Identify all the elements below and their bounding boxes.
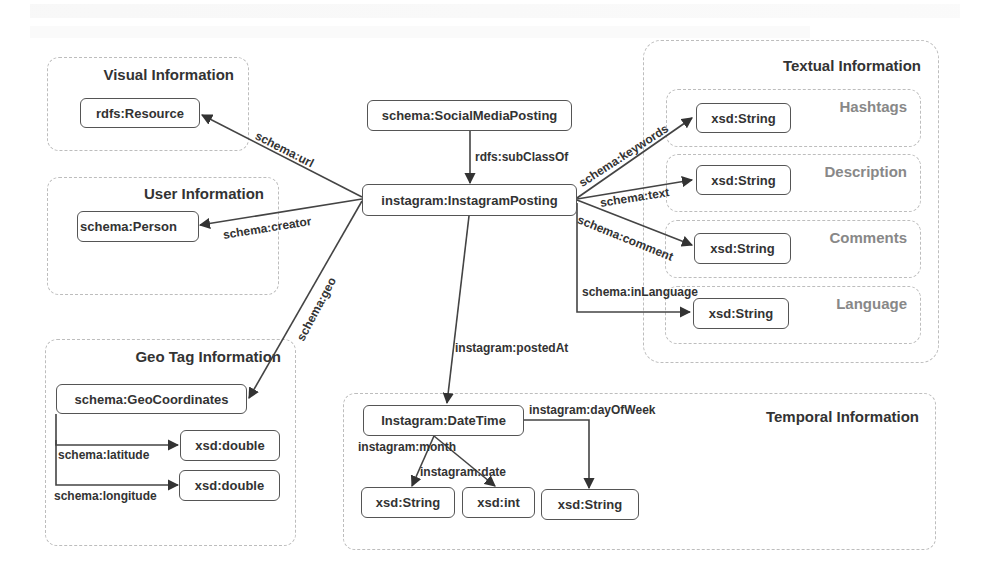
edge-dayofweek [524,420,589,488]
edge-label-latitude: schema:latitude [58,448,149,462]
edge-label-longitude: schema:longitude [54,489,157,503]
edge-label-date: instagram:date [420,465,506,479]
edge-longitude [56,440,178,485]
edge-latitude [56,414,178,445]
node-datetime: Instagram:DateTime [363,405,524,436]
node-hashtags-string: xsd:String [696,103,791,133]
node-social-media-posting: schema:SocialMediaPosting [367,100,572,131]
node-rdfs-resource: rdfs:Resource [80,98,200,128]
edge-keywords [577,118,692,198]
node-month-string: xsd:String [361,487,455,518]
node-language-string: xsd:String [693,298,789,329]
node-instagram-posting: instagram:InstagramPosting [362,184,577,216]
edge-label-dayofweek: instagram:dayOfWeek [529,403,656,417]
node-dayofweek-string: xsd:String [541,489,639,520]
edge-label-month: instagram:month [358,440,456,454]
edge-label-inlanguage: schema:inLanguage [582,285,698,299]
edge-label-subclassof: rdfs:subClassOf [475,150,568,164]
node-comments-string: xsd:String [694,233,791,264]
node-longitude-double: xsd:double [179,470,280,501]
node-latitude-double: xsd:double [180,430,280,461]
node-date-int: xsd:int [462,487,535,518]
node-schema-person: schema:Person [77,211,199,242]
edge-postedat [447,216,469,403]
node-description-string: xsd:String [696,165,791,195]
edge-label-postedat: instagram:postedAt [455,341,568,355]
node-geo-coordinates: schema:GeoCoordinates [56,384,247,414]
